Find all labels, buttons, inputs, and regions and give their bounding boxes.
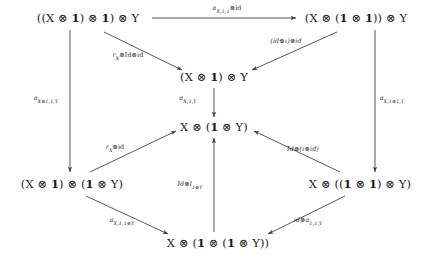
label-topright-to-middle: (id⊗ι)⊗id: [270, 37, 301, 46]
label-left-vertical: aX⊗1,1,Y: [34, 94, 59, 103]
label-bottomleft-to-center: rX⊗id: [106, 143, 125, 152]
arrow-bottomright-to-bottom: [268, 196, 345, 234]
node-bottom-center: X ⊗ (1 ⊗ (1 ⊗ Y)): [167, 236, 269, 250]
commutative-diagram: ((X ⊗ 1) ⊗ 1) ⊗ Y (X ⊗ (1 ⊗ 1)) ⊗ Y (X ⊗…: [0, 0, 429, 263]
arrow-bottomleft-to-bottom: [86, 196, 168, 234]
arrow-bottomleft-to-center: [90, 131, 176, 172]
node-bottom-left: (X ⊗ 1) ⊗ (1 ⊗ Y): [21, 177, 123, 191]
node-top-right: (X ⊗ (1 ⊗ 1)) ⊗ Y: [305, 11, 407, 25]
node-upper-middle: (X ⊗ 1) ⊗ Y: [180, 70, 248, 84]
label-top-horizontal: aX,1,1⊗id: [213, 4, 242, 13]
label-middle-vertical: aX,1,Y: [179, 94, 196, 103]
node-top-left: ((X ⊗ 1) ⊗ 1) ⊗ Y: [37, 11, 139, 25]
label-bottomcenter-to-center: Id⊗l1⊗Y: [177, 180, 202, 189]
label-topleft-to-middle: rX⊗Id⊗id: [113, 51, 144, 60]
label-bottomright-to-bottom: id⊗a1,1,Y: [294, 216, 323, 225]
node-center: X ⊗ (1 ⊗ Y): [180, 120, 248, 134]
node-bottom-right: X ⊗ ((1 ⊗ 1) ⊗ Y): [309, 177, 411, 191]
label-bottomright-to-center: Id⊗(ι⊗id): [287, 145, 319, 154]
label-right-vertical: aX,1⊗1,Y: [380, 94, 405, 103]
label-bottomleft-to-bottom: aX,1,1⊗Y: [110, 216, 135, 225]
